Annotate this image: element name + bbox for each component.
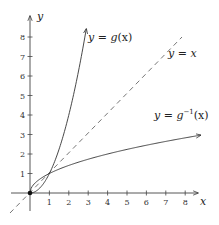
g-label: y = g(x) (87, 31, 132, 44)
g-inverse-curve (30, 135, 201, 193)
x-tick-label: 8 (183, 198, 188, 207)
y-tick-label: 8 (20, 33, 25, 42)
x-tick-label: 7 (163, 198, 168, 207)
y-tick-label: 4 (20, 111, 25, 120)
x-tick-label: 6 (144, 198, 149, 207)
y-tick-label: 2 (20, 150, 25, 159)
g-inverse-label: y = g−1(x) (153, 108, 209, 122)
x-axis-label: x (200, 195, 207, 208)
y-tick-label: 7 (20, 53, 25, 62)
x-tick-label: 3 (86, 198, 91, 207)
x-tick-label: 2 (66, 198, 71, 207)
x-tick-label: 1 (47, 198, 52, 207)
y-tick-label: 3 (20, 131, 25, 140)
y-tick-label: 6 (20, 72, 25, 81)
y-tick-label: 5 (20, 92, 25, 101)
identity-label: y = x (167, 47, 197, 60)
origin-point (28, 191, 33, 196)
y-axis-label: y (36, 10, 44, 23)
x-tick-label: 5 (124, 198, 129, 207)
function-inverse-plot: 12345678 12345678 x y y = g(x) y = x y =… (0, 0, 219, 225)
g-curve (30, 29, 86, 193)
identity-line-dashed (10, 37, 182, 213)
y-axis-ticks: 12345678 (20, 33, 33, 179)
y-tick-label: 1 (20, 170, 25, 179)
x-tick-label: 4 (105, 198, 110, 207)
